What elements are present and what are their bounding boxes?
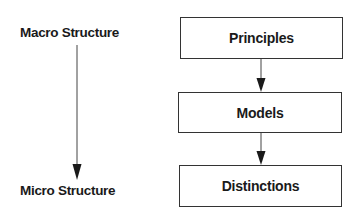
arrow-principles-to-models bbox=[257, 58, 266, 92]
models-box: Models bbox=[178, 92, 342, 133]
principles-box: Principles bbox=[180, 17, 343, 59]
models-label: Models bbox=[236, 105, 283, 121]
distinctions-box: Distinctions bbox=[179, 165, 342, 207]
macro-structure-label: Macro Structure bbox=[20, 25, 119, 40]
scale-arrow bbox=[73, 45, 82, 180]
distinctions-label: Distinctions bbox=[222, 178, 300, 194]
principles-label: Principles bbox=[229, 30, 294, 46]
micro-structure-label: Micro Structure bbox=[20, 183, 115, 198]
arrow-models-to-distinctions bbox=[257, 132, 266, 165]
